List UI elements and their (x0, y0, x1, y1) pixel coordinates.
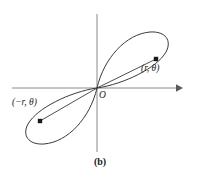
point-label-r-theta: (r, θ) (141, 64, 159, 74)
polar-curve-figure: (r, θ) (−r, θ) O (b) (0, 0, 200, 180)
point-label-negative-r-theta: (−r, θ) (12, 98, 37, 108)
point-marker-negative-r-theta (38, 119, 42, 123)
radius-line-negative (40, 88, 97, 121)
point-marker-r-theta (154, 57, 158, 61)
origin-label: O (99, 91, 106, 101)
figure-caption: (b) (0, 157, 200, 167)
x-axis-arrowhead-icon (176, 84, 183, 92)
